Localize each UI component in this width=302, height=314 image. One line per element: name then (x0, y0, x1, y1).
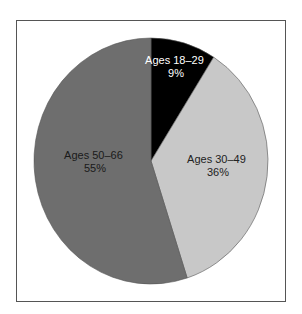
pie-chart: Ages 18–29 9% Ages 30–49 36% Ages 50–66 … (0, 0, 302, 314)
